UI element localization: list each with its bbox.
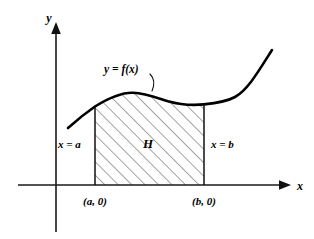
right-boundary-label: x = b [210,138,234,150]
right-point-label: (b, 0) [192,195,216,208]
math-figure-region-under-curve: y x y = f(x) x = a x = b H (a, 0) (b, 0) [0,0,314,239]
curve-label-leader [150,74,154,91]
curve-equation-label: y = f(x) [102,63,139,76]
region-label-H: H [142,136,154,151]
arrow-up-icon [51,22,61,34]
arrow-right-icon [279,180,291,190]
left-boundary-label: x = a [57,138,81,150]
y-axis-label: y [44,11,52,25]
left-point-label: (a, 0) [83,195,107,208]
leader-line [150,74,154,91]
x-axis-label: x [296,179,303,193]
